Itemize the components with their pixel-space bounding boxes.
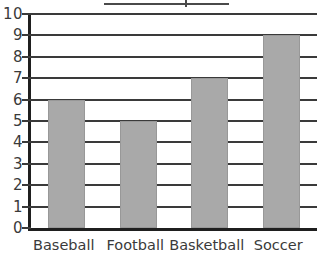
y-axis-tick-label: 10 bbox=[3, 7, 23, 22]
y-axis-tick-mark bbox=[22, 206, 31, 208]
cropped-rule-decoration bbox=[104, 3, 229, 5]
bar bbox=[191, 78, 228, 228]
x-axis-category-labels: BaseballFootballBasketballSoccer bbox=[28, 238, 317, 260]
y-axis-tick-mark bbox=[22, 184, 31, 186]
x-axis-category-label: Baseball bbox=[33, 238, 94, 253]
bar-series bbox=[31, 14, 317, 228]
bar bbox=[263, 35, 300, 228]
y-axis-tick-mark bbox=[22, 56, 31, 58]
x-axis-category-label: Soccer bbox=[254, 238, 303, 253]
y-axis-tick-mark bbox=[22, 141, 31, 143]
y-axis-tick-mark bbox=[22, 13, 31, 15]
y-axis-tick-labels: 012345678910 bbox=[0, 14, 26, 231]
y-axis-tick-mark bbox=[22, 77, 31, 79]
plot-area bbox=[28, 14, 317, 231]
bar bbox=[48, 100, 85, 228]
x-axis-category-label: Basketball bbox=[169, 238, 244, 253]
y-axis-tick-mark bbox=[22, 163, 31, 165]
y-axis-tick-mark bbox=[22, 99, 31, 101]
bar-chart-figure: 012345678910 BaseballFootballBasketballS… bbox=[0, 0, 317, 261]
y-axis-tick-mark bbox=[22, 34, 31, 36]
y-axis-tick-mark bbox=[22, 227, 31, 229]
x-axis-category-label: Football bbox=[107, 238, 164, 253]
y-axis-tick-mark bbox=[22, 120, 31, 122]
bar bbox=[120, 121, 157, 228]
cropped-rule-tick-icon bbox=[185, 0, 187, 7]
